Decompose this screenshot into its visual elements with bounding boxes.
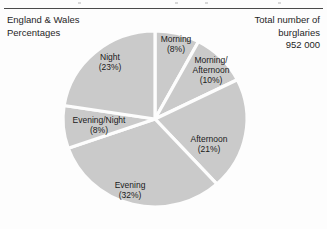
- pie-label-line: (8%): [73, 125, 126, 135]
- pie-label-line: Afternoon: [193, 65, 230, 75]
- pie-label-line: Evening: [115, 180, 146, 190]
- pie-label-line: (21%): [191, 144, 228, 154]
- pie-label-line: (8%): [161, 44, 192, 54]
- pie-label-line: Evening/Night: [73, 115, 126, 125]
- pie-label-line: Morning/: [193, 55, 230, 65]
- pie-label-evening-night: Evening/Night(8%): [73, 115, 126, 135]
- pie-label-morning-afternoon: Morning/Afternoon(10%): [193, 55, 230, 85]
- pie-slice-night: [64, 31, 155, 119]
- pie-label-night: Night(23%): [99, 52, 122, 72]
- pie-label-line: (32%): [115, 190, 146, 200]
- pie-label-line: Afternoon: [191, 134, 228, 144]
- pie-chart-figure: England & Wales Percentages Total number…: [0, 0, 327, 229]
- pie-label-evening: Evening(32%): [115, 180, 146, 200]
- pie-label-morning: Morning(8%): [161, 34, 192, 54]
- pie-label-line: Night: [99, 52, 122, 62]
- pie-chart-area: Morning(8%)Morning/Afternoon(10%)Afterno…: [0, 0, 327, 229]
- pie-label-line: (23%): [99, 62, 122, 72]
- pie-label-line: Morning: [161, 34, 192, 44]
- pie-label-afternoon: Afternoon(21%): [191, 134, 228, 154]
- pie-label-line: (10%): [193, 75, 230, 85]
